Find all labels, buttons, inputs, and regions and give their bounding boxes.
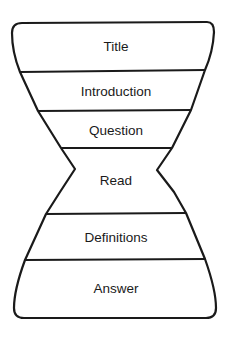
hourglass-outline — [12, 22, 216, 318]
divider-definitions-answer — [25, 259, 205, 260]
hourglass-diagram: Title Introduction Question Read Definit… — [0, 0, 228, 337]
section-definitions-label: Definitions — [84, 230, 147, 245]
section-read-label: Read — [100, 173, 132, 188]
section-answer-label: Answer — [93, 281, 139, 296]
divider-introduction-question — [38, 110, 191, 111]
divider-read-definitions — [46, 213, 186, 214]
section-introduction-label: Introduction — [81, 84, 152, 99]
section-question-label: Question — [89, 123, 143, 138]
section-title-label: Title — [103, 39, 128, 54]
